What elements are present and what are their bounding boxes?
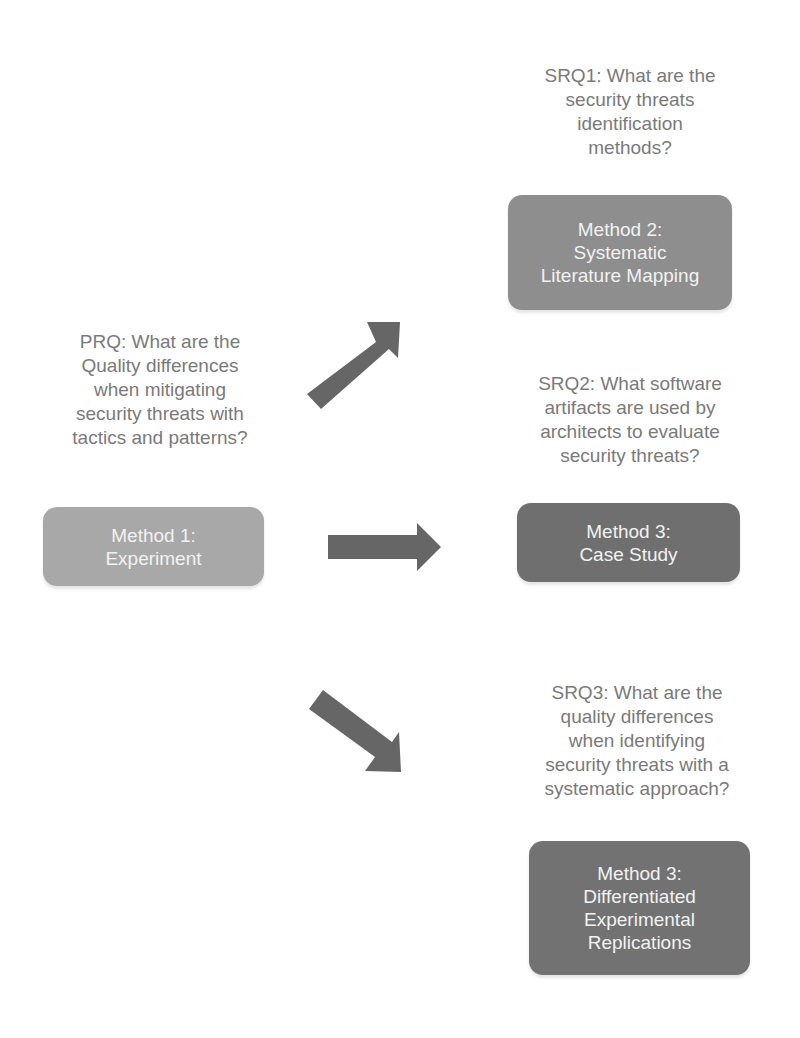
arrow-right-icon [328, 523, 441, 571]
method-2-literature-mapping-box: Method 2: Systematic Literature Mapping [508, 195, 732, 310]
arrow-down-right-icon [309, 690, 401, 772]
srq3-question: SRQ3: What are the quality differences w… [512, 681, 762, 801]
method-1-experiment-box: Method 1: Experiment [43, 507, 264, 586]
research-method-diagram: PRQ: What are the Quality differences wh… [0, 0, 800, 1038]
method-3-case-study-box: Method 3: Case Study [517, 503, 740, 582]
srq2-question: SRQ2: What software artifacts are used b… [505, 372, 755, 468]
srq1-question: SRQ1: What are the security threats iden… [505, 64, 755, 160]
primary-research-question: PRQ: What are the Quality differences wh… [40, 330, 280, 450]
method-3-replications-box: Method 3: Differentiated Experimental Re… [529, 841, 750, 975]
arrow-up-right-icon [307, 322, 400, 409]
